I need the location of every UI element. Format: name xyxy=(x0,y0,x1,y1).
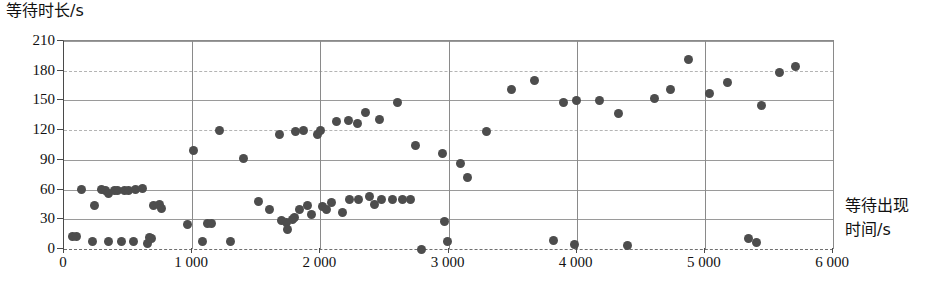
data-point xyxy=(443,237,452,246)
y-tick-mark-60 xyxy=(57,189,63,190)
y-tick-label-180: 180 xyxy=(9,63,55,78)
data-point xyxy=(507,85,516,94)
y-tick-label-60: 60 xyxy=(9,182,55,197)
y-tick-mark-210 xyxy=(57,40,63,41)
data-point xyxy=(456,159,465,168)
data-point xyxy=(338,208,347,217)
gridline-x-5000 xyxy=(705,41,706,249)
data-point xyxy=(463,173,472,182)
data-point xyxy=(90,201,99,210)
data-point xyxy=(198,237,207,246)
data-point xyxy=(307,210,316,219)
y-tick-label-120: 120 xyxy=(9,122,55,137)
x-tick-mark-5000 xyxy=(704,248,705,253)
data-point xyxy=(275,130,284,139)
gridline-x-3000 xyxy=(449,41,450,249)
data-point xyxy=(189,146,198,155)
data-point xyxy=(570,240,579,249)
x-axis-line xyxy=(64,249,833,250)
data-point xyxy=(666,85,675,94)
data-point xyxy=(361,108,370,117)
x-tick-mark-2000 xyxy=(319,248,320,253)
data-point xyxy=(757,101,766,110)
data-point xyxy=(393,98,402,107)
data-point xyxy=(411,141,420,150)
gridline-x-4000 xyxy=(577,41,578,249)
data-point xyxy=(138,184,147,193)
data-point xyxy=(254,197,263,206)
data-point xyxy=(72,232,81,241)
x-tick-label-2000: 2 000 xyxy=(274,254,364,270)
data-point xyxy=(595,96,604,105)
data-point xyxy=(353,119,362,128)
y-tick-mark-150 xyxy=(57,99,63,100)
x-tick-label-0: 0 xyxy=(18,254,108,270)
data-point xyxy=(723,78,732,87)
data-point xyxy=(332,117,341,126)
data-point xyxy=(388,195,397,204)
x-axis-title-line1: 等待出现 xyxy=(845,194,941,218)
data-point xyxy=(406,195,415,204)
y-tick-label-210: 210 xyxy=(9,33,55,48)
data-point xyxy=(183,220,192,229)
data-point xyxy=(265,205,274,214)
data-point xyxy=(775,68,784,77)
data-point xyxy=(207,219,216,228)
data-point xyxy=(752,238,761,247)
data-point xyxy=(530,76,539,85)
y-tick-mark-90 xyxy=(57,159,63,160)
data-point xyxy=(650,94,659,103)
data-point xyxy=(215,126,224,135)
data-point xyxy=(482,127,491,136)
x-tick-mark-4000 xyxy=(576,248,577,253)
data-point xyxy=(327,198,336,207)
data-point xyxy=(226,237,235,246)
x-tick-mark-6000 xyxy=(832,248,833,253)
data-point xyxy=(290,213,299,222)
data-point xyxy=(344,116,353,125)
data-point xyxy=(377,195,386,204)
data-point xyxy=(345,195,354,204)
data-point xyxy=(117,237,126,246)
plot-area xyxy=(63,40,834,249)
y-tick-mark-180 xyxy=(57,70,63,71)
data-point xyxy=(88,237,97,246)
data-point xyxy=(283,225,292,234)
data-point xyxy=(303,201,312,210)
data-point xyxy=(375,115,384,124)
data-point xyxy=(157,204,166,213)
scatter-chart-figure: 等待时长/s 等待出现 时间/s 0306090120150180210 01 … xyxy=(0,0,941,284)
gridline-x-2000 xyxy=(320,41,321,249)
data-point xyxy=(684,55,693,64)
data-point xyxy=(299,126,308,135)
y-tick-mark-120 xyxy=(57,129,63,130)
x-tick-label-5000: 5 000 xyxy=(659,254,749,270)
data-point xyxy=(316,126,325,135)
x-tick-mark-0 xyxy=(63,248,64,253)
y-tick-label-90: 90 xyxy=(9,152,55,167)
data-point xyxy=(239,154,248,163)
x-axis-title: 等待出现 时间/s xyxy=(845,194,941,242)
x-tick-mark-1000 xyxy=(191,248,192,253)
x-tick-label-1000: 1 000 xyxy=(146,254,236,270)
data-point xyxy=(623,241,632,250)
data-point xyxy=(77,185,86,194)
y-axis-title: 等待时长/s xyxy=(6,1,84,21)
x-axis-title-line2: 时间/s xyxy=(845,218,941,242)
y-tick-label-30: 30 xyxy=(9,211,55,226)
data-point xyxy=(549,236,558,245)
x-tick-label-4000: 4 000 xyxy=(531,254,621,270)
y-tick-label-150: 150 xyxy=(9,92,55,107)
data-point xyxy=(354,195,363,204)
data-point xyxy=(572,96,581,105)
data-point xyxy=(104,237,113,246)
x-tick-label-3000: 3 000 xyxy=(403,254,493,270)
data-point xyxy=(417,245,426,254)
y-tick-mark-30 xyxy=(57,218,63,219)
data-point xyxy=(559,98,568,107)
x-tick-mark-3000 xyxy=(448,248,449,253)
data-point xyxy=(438,149,447,158)
gridline-x-1000 xyxy=(192,41,193,249)
data-point xyxy=(705,89,714,98)
data-point xyxy=(614,109,623,118)
